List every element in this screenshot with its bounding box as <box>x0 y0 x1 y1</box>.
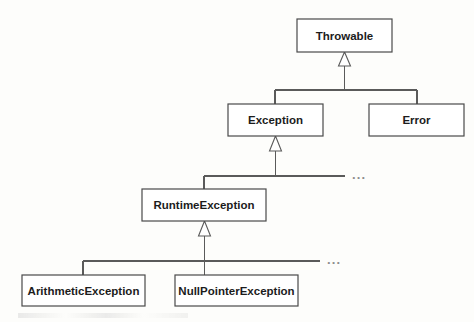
class-box-nullpointer-exception[interactable]: NullPointerException <box>175 275 298 306</box>
class-box-error-label: Error <box>402 114 431 126</box>
diagram-canvas: Throwable Exception Error RuntimeExcepti… <box>0 0 474 322</box>
class-box-throwable[interactable]: Throwable <box>297 19 392 52</box>
class-box-arithmetic-exception[interactable]: ArithmeticException <box>22 275 145 306</box>
inheritance-arrowhead-runtime <box>199 221 211 236</box>
class-box-exception-label: Exception <box>248 114 303 126</box>
ellipsis-runtime-subclasses: ... <box>327 252 341 267</box>
class-box-runtime-exception-label: RuntimeException <box>154 199 255 211</box>
ellipsis-exception-subclasses: ... <box>352 167 366 182</box>
class-box-error[interactable]: Error <box>369 104 464 136</box>
inheritance-arrowhead-throwable <box>339 52 351 66</box>
edge-exception-children <box>204 136 345 189</box>
class-box-runtime-exception[interactable]: RuntimeException <box>142 189 266 221</box>
edge-runtime-children <box>83 221 320 275</box>
class-box-throwable-label: Throwable <box>316 30 374 42</box>
class-hierarchy-diagram: Throwable Exception Error RuntimeExcepti… <box>0 0 474 322</box>
class-box-nullpointer-exception-label: NullPointerException <box>178 285 294 297</box>
edge-throwable-children <box>275 52 417 104</box>
class-box-exception[interactable]: Exception <box>228 104 323 136</box>
inheritance-arrowhead-exception <box>270 136 282 151</box>
class-box-arithmetic-exception-label: ArithmeticException <box>28 285 140 297</box>
